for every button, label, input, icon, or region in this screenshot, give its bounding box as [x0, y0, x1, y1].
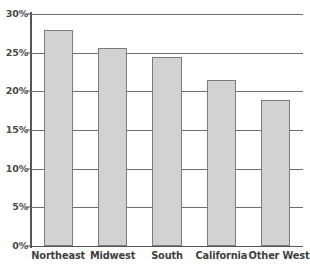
bar — [261, 100, 290, 246]
y-axis-labels: 0%5%10%15%20%25%30% — [0, 0, 28, 265]
x-axis-category-label: California — [194, 249, 248, 263]
bar — [44, 30, 73, 246]
y-axis-tick-label: 10% — [2, 164, 28, 174]
y-axis-tick-mark — [26, 168, 31, 169]
bars-group — [31, 14, 303, 246]
gridline — [31, 246, 303, 247]
y-axis-tick-label: 5% — [2, 203, 28, 213]
bar — [98, 48, 127, 246]
y-axis-tick-label: 15% — [2, 125, 28, 135]
x-axis-category-label: Other West — [249, 249, 303, 263]
y-axis-tick-mark — [26, 14, 31, 15]
bar-chart: 0%5%10%15%20%25%30% NortheastMidwestSout… — [0, 0, 310, 265]
bar — [207, 80, 236, 246]
x-axis-category-label: South — [140, 249, 194, 263]
y-axis-tick-mark — [26, 130, 31, 131]
x-axis-category-label: Midwest — [85, 249, 139, 263]
y-axis-tick-mark — [26, 91, 31, 92]
y-axis-tick-label: 30% — [2, 9, 28, 19]
bar — [152, 57, 181, 246]
x-axis-labels: NortheastMidwestSouthCaliforniaOther Wes… — [31, 249, 303, 265]
y-axis-tick-label: 25% — [2, 48, 28, 58]
x-axis-category-label: Northeast — [31, 249, 85, 263]
y-axis-tick-mark — [26, 52, 31, 53]
y-axis-tick-mark — [26, 207, 31, 208]
y-axis-tick-label: 0% — [2, 241, 28, 251]
y-axis-tick-mark — [26, 246, 31, 247]
plot-area — [31, 14, 303, 246]
y-axis-tick-label: 20% — [2, 87, 28, 97]
